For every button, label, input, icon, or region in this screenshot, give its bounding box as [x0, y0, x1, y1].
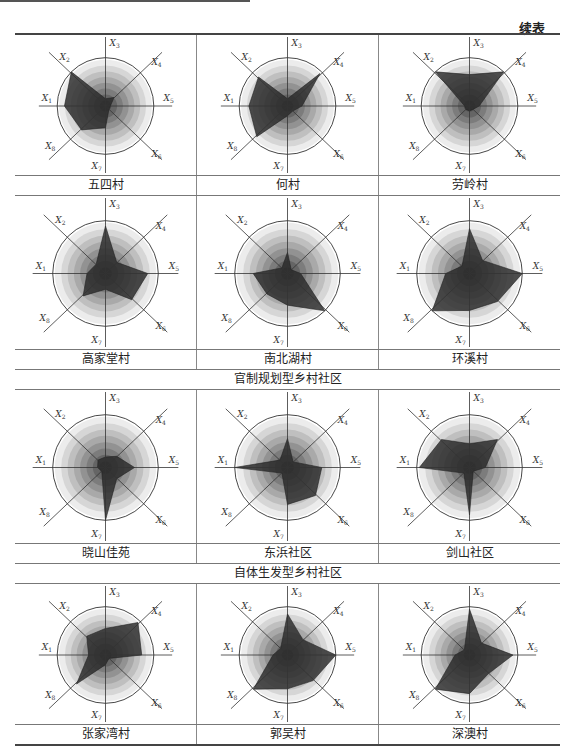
village-label: 劳岭村: [378, 176, 560, 195]
axis-label-x4: X4: [514, 606, 525, 617]
axis-label-x1: X1: [217, 261, 228, 272]
axis-label-x2: X2: [54, 215, 65, 226]
radar-chart: X1X2X3X4X5X6X7X8: [15, 390, 196, 543]
axis-label-x2: X2: [59, 52, 70, 63]
axis-label-x3: X3: [291, 587, 302, 598]
top-rule: [0, 0, 250, 2]
axis-label-x5: X5: [526, 93, 537, 104]
radar-svg: X1X2X3X4X5X6X7X8: [379, 584, 560, 724]
village-label: 郭吴村: [196, 725, 378, 744]
axis-label-x6: X6: [332, 698, 343, 709]
axis-label-x1: X1: [217, 455, 228, 466]
axis-label-x5: X5: [350, 261, 361, 272]
village-label: 张家湾村: [15, 725, 196, 744]
axis-label-x4: X4: [514, 57, 525, 68]
axis-label-x4: X4: [150, 606, 161, 617]
axis-label-x8: X8: [39, 313, 50, 324]
axis-label-x2: X2: [241, 601, 252, 612]
axis-label-x2: X2: [59, 601, 70, 612]
axis-label-x6: X6: [150, 698, 161, 709]
group-heading: 自体生发型乡村社区: [15, 564, 560, 583]
axis-label-x6: X6: [519, 321, 530, 332]
axis-label-x4: X4: [519, 221, 530, 232]
radar-chart-table: X1X2X3X4X5X6X7X8 X1X2X3X4X5X6X7X8 X1X2X3…: [15, 33, 560, 746]
chart-row: X1X2X3X4X5X6X7X8 X1X2X3X4X5X6X7X8 X1X2X3…: [15, 196, 560, 349]
axis-label-x2: X2: [418, 215, 429, 226]
axis-label-x6: X6: [519, 515, 530, 526]
axis-label-x8: X8: [44, 141, 55, 152]
axis-label-x2: X2: [236, 409, 247, 420]
axis-label-x3: X3: [109, 587, 120, 598]
radar-svg: X1X2X3X4X5X6X7X8: [379, 196, 560, 349]
radar-svg: X1X2X3X4X5X6X7X8: [197, 584, 378, 724]
axis-label-x8: X8: [226, 141, 237, 152]
axis-label-x8: X8: [221, 507, 232, 518]
axis-label-x6: X6: [150, 149, 161, 160]
axis-label-x4: X4: [332, 57, 343, 68]
axis-label-x2: X2: [241, 52, 252, 63]
axis-label-x7: X7: [91, 335, 102, 346]
village-label: 南北湖村: [196, 350, 378, 369]
axis-label-x4: X4: [519, 415, 530, 426]
radar-svg: X1X2X3X4X5X6X7X8: [15, 584, 196, 724]
axis-label-x3: X3: [291, 38, 302, 49]
axis-label-x3: X3: [109, 393, 120, 404]
axis-label-x3: X3: [109, 38, 120, 49]
axis-label-x5: X5: [162, 93, 173, 104]
village-label: 高家堂村: [15, 350, 196, 369]
axis-label-x3: X3: [291, 199, 302, 210]
radar-chart: X1X2X3X4X5X6X7X8: [378, 390, 560, 543]
radar-svg: X1X2X3X4X5X6X7X8: [379, 390, 560, 543]
axis-label-x1: X1: [223, 93, 234, 104]
axis-label-x8: X8: [39, 507, 50, 518]
axis-label-x5: X5: [344, 93, 355, 104]
axis-label-x7: X7: [91, 161, 102, 172]
radar-chart: X1X2X3X4X5X6X7X8: [15, 35, 196, 175]
axis-label-x7: X7: [455, 335, 466, 346]
group-heading: 官制规划型乡村社区: [15, 370, 560, 389]
radar-chart: X1X2X3X4X5X6X7X8: [196, 35, 378, 175]
radar-svg: X1X2X3X4X5X6X7X8: [15, 390, 196, 543]
radar-chart: X1X2X3X4X5X6X7X8: [196, 390, 378, 543]
axis-label-x1: X1: [399, 455, 410, 466]
axis-label-x2: X2: [54, 409, 65, 420]
axis-label-x7: X7: [273, 529, 284, 540]
axis-label-x6: X6: [155, 515, 166, 526]
axis-label-x7: X7: [273, 710, 284, 721]
radar-chart: X1X2X3X4X5X6X7X8: [15, 584, 196, 724]
axis-label-x3: X3: [473, 393, 484, 404]
label-row: 五四村 何村 劳岭村: [15, 176, 560, 195]
axis-label-x7: X7: [455, 529, 466, 540]
axis-label-x4: X4: [150, 57, 161, 68]
label-row: 张家湾村 郭吴村 深澳村: [15, 725, 560, 744]
village-label: 五四村: [15, 176, 196, 195]
radar-chart: X1X2X3X4X5X6X7X8: [378, 584, 560, 724]
radar-chart: X1X2X3X4X5X6X7X8: [378, 35, 560, 175]
axis-label-x4: X4: [337, 415, 348, 426]
axis-label-x5: X5: [532, 261, 543, 272]
axis-label-x6: X6: [514, 698, 525, 709]
axis-label-x2: X2: [423, 601, 434, 612]
axis-label-x8: X8: [226, 690, 237, 701]
radar-chart: X1X2X3X4X5X6X7X8: [378, 196, 560, 349]
axis-label-x7: X7: [455, 710, 466, 721]
axis-label-x5: X5: [532, 455, 543, 466]
village-label: 深澳村: [378, 725, 560, 744]
axis-label-x1: X1: [399, 261, 410, 272]
axis-label-x6: X6: [332, 149, 343, 160]
label-row: 高家堂村 南北湖村 环溪村: [15, 350, 560, 369]
axis-label-x4: X4: [155, 221, 166, 232]
axis-label-x1: X1: [405, 642, 416, 653]
axis-label-x4: X4: [337, 221, 348, 232]
village-label: 何村: [196, 176, 378, 195]
axis-label-x6: X6: [337, 321, 348, 332]
chart-row: X1X2X3X4X5X6X7X8 X1X2X3X4X5X6X7X8 X1X2X3…: [15, 584, 560, 724]
axis-label-x7: X7: [273, 161, 284, 172]
axis-label-x1: X1: [41, 642, 52, 653]
axis-label-x8: X8: [44, 690, 55, 701]
axis-label-x5: X5: [162, 642, 173, 653]
axis-label-x3: X3: [473, 199, 484, 210]
axis-label-x7: X7: [91, 529, 102, 540]
axis-label-x3: X3: [473, 38, 484, 49]
axis-label-x3: X3: [109, 199, 120, 210]
